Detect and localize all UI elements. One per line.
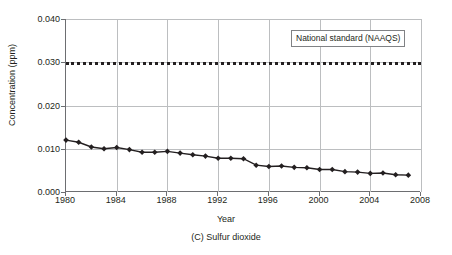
x-tick-mark [166, 192, 167, 196]
figure-caption: (C) Sulfur dioxide [0, 232, 452, 242]
x-tick-label: 1984 [96, 196, 136, 205]
x-tick-mark [268, 192, 269, 196]
x-tick-label: 1980 [45, 196, 85, 205]
data-point-marker [190, 152, 196, 158]
data-point-marker [317, 167, 323, 173]
y-tick-label: 0.030 [20, 58, 60, 67]
data-point-marker [63, 137, 69, 143]
data-point-marker [253, 162, 259, 168]
national-standard-legend: National standard (NAAQS) [291, 30, 405, 47]
data-point-marker [139, 149, 145, 155]
data-point-marker [127, 147, 133, 153]
x-axis-title: Year [0, 214, 452, 224]
data-point-marker [101, 146, 107, 152]
data-point-marker [152, 149, 158, 155]
x-tick-label: 2000 [299, 196, 339, 205]
data-point-marker [329, 167, 335, 173]
x-tick-label: 1996 [248, 196, 288, 205]
x-tick-mark [319, 192, 320, 196]
x-tick-mark [217, 192, 218, 196]
data-point-marker [380, 170, 386, 176]
x-tick-label: 1992 [197, 196, 237, 205]
data-point-marker [266, 164, 272, 170]
data-point-marker [406, 172, 412, 178]
chart-figure: Concentration (ppm) 0.0000.0100.0200.030… [0, 0, 452, 255]
x-tick-label: 2008 [400, 196, 440, 205]
data-point-marker [342, 169, 348, 175]
data-point-marker [215, 155, 221, 161]
national-standard-label: National standard (NAAQS) [296, 33, 400, 43]
data-point-marker [367, 171, 373, 177]
data-point-marker [228, 155, 234, 161]
data-point-marker [393, 172, 399, 178]
data-point-marker [241, 156, 247, 162]
data-point-marker [203, 153, 209, 159]
data-point-marker [177, 150, 183, 156]
y-tick-label: 0.020 [20, 102, 60, 111]
x-tick-mark [420, 192, 421, 196]
gridline-x [421, 19, 422, 192]
data-point-marker [76, 139, 82, 145]
data-point-marker [279, 163, 285, 169]
x-tick-mark [116, 192, 117, 196]
data-point-marker [304, 165, 310, 171]
data-point-marker [355, 169, 361, 175]
x-tick-label: 1988 [146, 196, 186, 205]
series-markers [63, 137, 411, 178]
data-point-marker [114, 145, 120, 151]
x-tick-mark [369, 192, 370, 196]
y-axis-title: Concentration (ppm) [5, 0, 19, 185]
x-tick-label: 2004 [349, 196, 389, 205]
data-point-marker [165, 149, 171, 155]
data-point-marker [89, 144, 95, 150]
x-tick-mark [65, 192, 66, 196]
y-tick-label: 0.040 [20, 15, 60, 24]
data-point-marker [291, 165, 297, 171]
y-tick-label: 0.010 [20, 145, 60, 154]
